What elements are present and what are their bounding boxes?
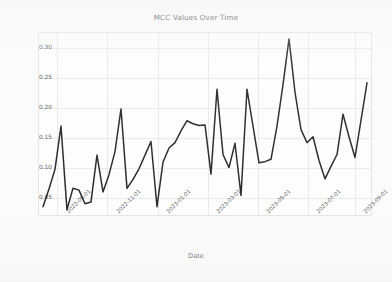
- chart-title: MCC Values Over Time: [0, 13, 392, 22]
- data-series-line: [39, 33, 371, 215]
- x-axis-label: Date: [0, 252, 392, 260]
- chart-figure: MCC Values Over Time MCC Value 0.050.100…: [0, 0, 392, 282]
- plot-area: [38, 32, 372, 216]
